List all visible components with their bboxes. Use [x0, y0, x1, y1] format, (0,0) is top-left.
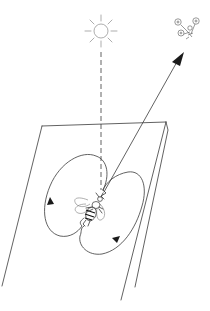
- flowers-icon: [175, 18, 199, 39]
- direction-arrow: [104, 52, 184, 192]
- right-loop-arrowhead-icon: [112, 236, 120, 243]
- comb-surface: [2, 122, 168, 300]
- arrowhead-icon: [172, 52, 184, 66]
- sun-icon: [85, 15, 117, 47]
- waggle-dance-diagram: [0, 0, 210, 311]
- left-loop-arrowhead-icon: [47, 197, 54, 205]
- bee-icon: [75, 193, 105, 226]
